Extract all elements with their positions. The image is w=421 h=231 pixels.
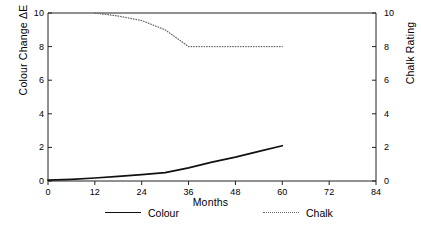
chart-figure: 0246810 0246810 012243648607284 Colour C… <box>0 0 421 231</box>
legend-item-chalk: Chalk <box>263 208 333 219</box>
legend-swatch-solid-line-icon <box>105 209 141 217</box>
legend-label-chalk: Chalk <box>306 208 333 219</box>
y-axis-right-label: Chalk Rating <box>404 0 416 138</box>
y-axis-left-label: Colour Change ΔE <box>17 0 29 135</box>
chart-legend: Colour Chalk <box>0 206 421 228</box>
legend-swatch-dotted-line-icon <box>263 209 299 217</box>
legend-item-colour: Colour <box>105 208 179 219</box>
legend-label-colour: Colour <box>148 208 179 219</box>
